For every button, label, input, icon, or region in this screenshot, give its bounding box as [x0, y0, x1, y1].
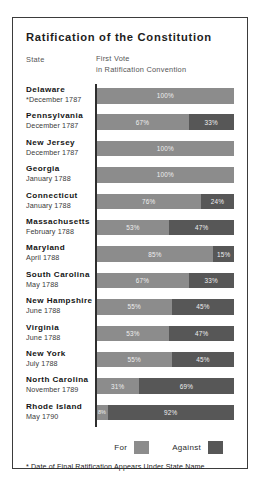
bar-segment-for: 55% — [97, 352, 173, 368]
chart-frame: Ratification of the Constitution State F… — [12, 17, 248, 469]
column-header-vote-line2: in Ratification Convention — [96, 65, 186, 76]
bar-segment-for: 67% — [97, 273, 189, 289]
table-row: GeorgiaJanuary 1788100% — [26, 163, 235, 189]
state-name: New Jersey — [26, 138, 94, 148]
state-name: New Hampshire — [26, 296, 94, 306]
state-name: South Carolina — [26, 270, 94, 280]
state-block: GeorgiaJanuary 1788 — [26, 164, 94, 184]
bar-segment-against: 24% — [201, 194, 234, 210]
state-name: Georgia — [26, 164, 94, 174]
legend-label-against: Against — [172, 443, 201, 452]
column-header-state: State — [26, 55, 45, 64]
bar-track: 55%45% — [97, 352, 235, 368]
bar-track: 76%24% — [97, 194, 235, 210]
table-row: North CarolinaNovember 178931%69% — [26, 374, 235, 400]
state-block: Rhode IslandMay 1790 — [26, 402, 94, 422]
state-block: New YorkJuly 1788 — [26, 349, 94, 369]
table-row: Rhode IslandMay 17908%92% — [26, 401, 235, 427]
state-date: January 1788 — [26, 174, 94, 184]
bar-track: 67%33% — [97, 273, 235, 289]
bar-segment-for: 100% — [97, 88, 235, 104]
table-row: VirginiaJune 178853%47% — [26, 322, 235, 348]
state-name: North Carolina — [26, 375, 94, 385]
bar-segment-against: 47% — [169, 326, 234, 342]
state-name: Rhode Island — [26, 402, 94, 412]
page-title: Ratification of the Constitution — [26, 31, 235, 43]
state-date: *December 1787 — [26, 95, 94, 105]
state-date: January 1788 — [26, 201, 94, 211]
state-block: MarylandApril 1788 — [26, 243, 94, 263]
state-block: New JerseyDecember 1787 — [26, 138, 94, 158]
table-row: Delaware*December 1787100% — [26, 84, 235, 110]
bar-segment-against: 92% — [108, 405, 235, 421]
state-date: December 1787 — [26, 121, 94, 131]
bar-segment-for: 53% — [97, 220, 170, 236]
legend-swatch-against — [208, 441, 223, 454]
state-name: Massachusetts — [26, 217, 94, 227]
bar-track: 85%15% — [97, 246, 235, 262]
state-date: November 1789 — [26, 385, 94, 395]
bar-segment-against: 45% — [172, 299, 234, 315]
table-row: New HampshireJune 178855%45% — [26, 295, 235, 321]
bar-segment-against: 47% — [169, 220, 234, 236]
state-name: New York — [26, 349, 94, 359]
table-row: New JerseyDecember 1787100% — [26, 137, 235, 163]
bar-track: 100% — [97, 141, 235, 157]
bar-track: 53%47% — [97, 220, 235, 236]
bar-segment-for: 85% — [97, 246, 214, 262]
infographic-page: Ratification of the Constitution State F… — [0, 0, 260, 483]
state-date: April 1788 — [26, 253, 94, 263]
bar-segment-against: 69% — [139, 378, 234, 394]
bar-segment-for: 100% — [97, 141, 235, 157]
table-row: MassachusettsFebruary 178853%47% — [26, 216, 235, 242]
state-date: June 1788 — [26, 333, 94, 343]
state-name: Connecticut — [26, 191, 94, 201]
state-date: February 1788 — [26, 227, 94, 237]
bar-segment-against: 45% — [172, 352, 234, 368]
table-row: PennsylvaniaDecember 178767%33% — [26, 110, 235, 136]
state-date: December 1787 — [26, 148, 94, 158]
state-block: PennsylvaniaDecember 1787 — [26, 111, 94, 131]
bar-segment-for: 67% — [97, 114, 189, 130]
chart-legend: For Against — [26, 437, 235, 461]
state-name: Delaware — [26, 85, 94, 95]
state-date: June 1788 — [26, 306, 94, 316]
bar-track: 31%69% — [97, 378, 235, 394]
state-name: Pennsylvania — [26, 111, 94, 121]
bar-track: 8%92% — [97, 405, 235, 421]
footnote: * Date of Final Ratification Appears Und… — [26, 463, 235, 471]
state-block: New HampshireJune 1788 — [26, 296, 94, 316]
column-header-vote: First Vote in Ratification Convention — [96, 54, 186, 75]
column-headers: State First Vote in Ratification Convent… — [26, 54, 235, 84]
state-name: Maryland — [26, 243, 94, 253]
bar-track: 55%45% — [97, 299, 235, 315]
bar-segment-for: 55% — [97, 299, 173, 315]
state-date: July 1788 — [26, 359, 94, 369]
bar-segment-for: 76% — [97, 194, 202, 210]
state-name: Virginia — [26, 323, 94, 333]
bar-track: 100% — [97, 88, 235, 104]
table-row: ConnecticutJanuary 178876%24% — [26, 190, 235, 216]
bar-segment-for: 100% — [97, 167, 235, 183]
bar-segment-against: 33% — [189, 114, 234, 130]
column-header-vote-line1: First Vote — [96, 54, 186, 65]
state-block: Delaware*December 1787 — [26, 85, 94, 105]
table-row: New YorkJuly 178855%45% — [26, 348, 235, 374]
state-block: ConnecticutJanuary 1788 — [26, 191, 94, 211]
table-row: South CarolinaMay 178867%33% — [26, 269, 235, 295]
bar-segment-against: 33% — [189, 273, 234, 289]
state-block: South CarolinaMay 1788 — [26, 270, 94, 290]
state-block: VirginiaJune 1788 — [26, 323, 94, 343]
bar-segment-against: 15% — [213, 246, 234, 262]
state-block: MassachusettsFebruary 1788 — [26, 217, 94, 237]
ratification-bar-chart: Delaware*December 1787100%PennsylvaniaDe… — [26, 84, 235, 427]
bar-segment-for: 53% — [97, 326, 170, 342]
state-date: May 1790 — [26, 412, 94, 422]
bar-track: 100% — [97, 167, 235, 183]
state-date: May 1788 — [26, 280, 94, 290]
bar-track: 67%33% — [97, 114, 235, 130]
bar-track: 53%47% — [97, 326, 235, 342]
legend-swatch-for — [134, 441, 149, 454]
table-row: MarylandApril 178885%15% — [26, 242, 235, 268]
bar-segment-for: 31% — [97, 378, 140, 394]
